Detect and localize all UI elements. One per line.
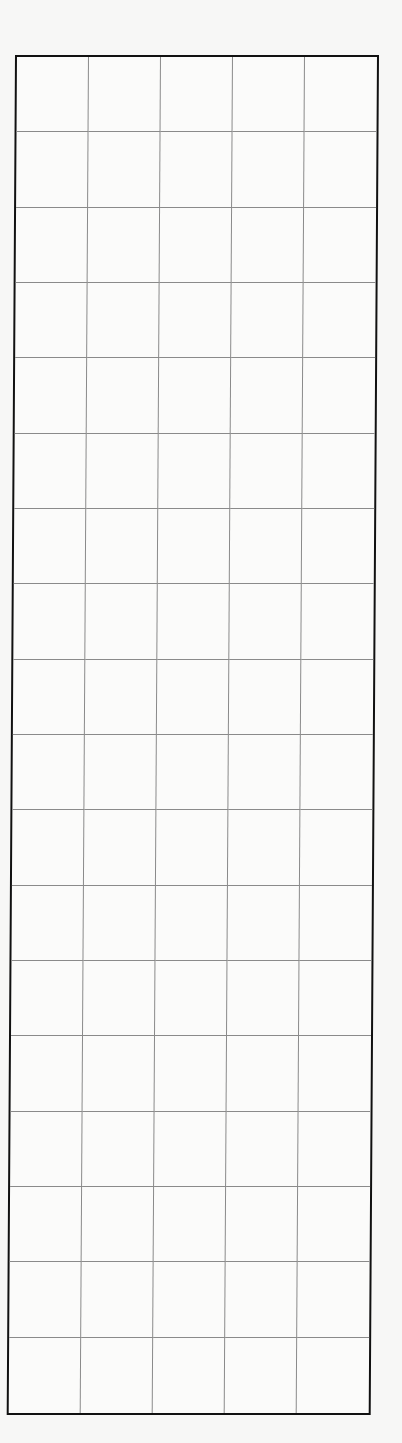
grid-cell: [9, 1262, 81, 1337]
grid-cell: [158, 434, 230, 509]
grid-cell: [89, 57, 161, 132]
grid-cell: [13, 584, 85, 659]
grid-cell: [298, 1112, 370, 1187]
grid-cell: [81, 1262, 153, 1337]
grid-cell: [302, 434, 374, 509]
grid-cell: [230, 434, 302, 509]
grid-cell: [84, 735, 156, 810]
grid-cell: [83, 1036, 155, 1111]
grid-cell: [153, 1262, 225, 1337]
grid-cell: [154, 1112, 226, 1187]
grid-cell: [231, 283, 303, 358]
grid-cell: [225, 1262, 297, 1337]
grid-cell: [232, 132, 304, 207]
grid-cell: [228, 810, 300, 885]
grid-cell: [12, 735, 84, 810]
grid-cell: [155, 961, 227, 1036]
grid-cell: [298, 1187, 370, 1262]
blank-grid-table: [7, 55, 379, 1415]
grid-cell: [297, 1262, 369, 1337]
grid-cell: [304, 208, 376, 283]
grid-cell: [85, 584, 157, 659]
grid-cell: [160, 208, 232, 283]
grid-cell: [83, 886, 155, 961]
grid-cell: [232, 208, 304, 283]
grid-cell: [17, 57, 89, 132]
grid-cell: [305, 57, 377, 132]
grid-cell: [83, 961, 155, 1036]
grid-cell: [14, 509, 86, 584]
grid-cell: [228, 735, 300, 810]
grid-cell: [226, 1187, 298, 1262]
grid-cell: [160, 132, 232, 207]
grid-cell: [300, 810, 372, 885]
grid-cell: [301, 584, 373, 659]
grid-cell: [10, 1187, 82, 1262]
grid-cell: [86, 434, 158, 509]
grid-cell: [82, 1187, 154, 1262]
grid-cell: [303, 283, 375, 358]
grid-cell: [11, 886, 83, 961]
grid-cell: [159, 283, 231, 358]
grid-cell: [82, 1112, 154, 1187]
grid-cell: [302, 509, 374, 584]
grid-cell: [157, 584, 229, 659]
grid-cell: [9, 1338, 81, 1413]
grid-cell: [233, 57, 305, 132]
grid-cell: [226, 1112, 298, 1187]
grid-cell: [299, 1036, 371, 1111]
grid-cell: [157, 660, 229, 735]
grid-cell: [299, 886, 371, 961]
grid-cell: [88, 132, 160, 207]
grid-cell: [85, 660, 157, 735]
grid-cell: [86, 509, 158, 584]
grid-cell: [227, 886, 299, 961]
grid-cell: [81, 1338, 153, 1413]
grid-cell: [299, 961, 371, 1036]
grid-cell: [304, 132, 376, 207]
grid-cell: [154, 1187, 226, 1262]
grid-cell: [84, 810, 156, 885]
grid-cell: [155, 886, 227, 961]
grid-cell: [87, 358, 159, 433]
grid-cell: [10, 1112, 82, 1187]
grid-cell: [11, 1036, 83, 1111]
grid-cell: [155, 1036, 227, 1111]
grid-cell: [12, 810, 84, 885]
grid-cell: [11, 961, 83, 1036]
grid-cell: [225, 1338, 297, 1413]
grid-cell: [303, 358, 375, 433]
grid-cell: [14, 434, 86, 509]
grid-cell: [297, 1338, 369, 1413]
grid-cell: [229, 660, 301, 735]
grid-cell: [158, 509, 230, 584]
grid-cell: [87, 283, 159, 358]
grid-cell: [153, 1338, 225, 1413]
grid-cell: [156, 735, 228, 810]
grid-cell: [156, 810, 228, 885]
grid-cell: [15, 358, 87, 433]
grid-cell: [88, 208, 160, 283]
grid-cell: [159, 358, 231, 433]
grid-cell: [227, 1036, 299, 1111]
grid-cell: [300, 735, 372, 810]
grid-cell: [229, 584, 301, 659]
grid-cell: [231, 358, 303, 433]
grid-cell: [16, 132, 88, 207]
grid-cell: [301, 660, 373, 735]
grid-cell: [13, 660, 85, 735]
grid-cell: [230, 509, 302, 584]
grid-cell: [161, 57, 233, 132]
grid-cell: [15, 283, 87, 358]
grid-cell: [16, 208, 88, 283]
grid-cell: [227, 961, 299, 1036]
